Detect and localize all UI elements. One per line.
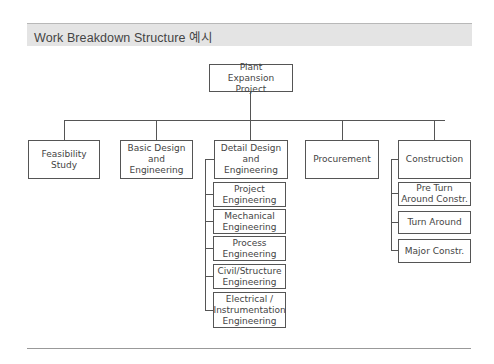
footer-divider: [27, 348, 471, 349]
connector: [156, 120, 157, 140]
wbs-root-node: Plant Expansion Project: [209, 64, 293, 92]
connector: [205, 159, 206, 310]
node-label: Electrical / Instrumentation Engineering: [214, 294, 286, 327]
node-label: Plant Expansion Project: [216, 62, 286, 95]
connector: [434, 120, 435, 140]
node-label: Civil/Structure Engineering: [217, 266, 283, 288]
connector: [391, 193, 398, 194]
wbs-node-feasibility-study: Feasibility Study: [28, 140, 100, 179]
connector: [391, 250, 398, 251]
title-bar: Work Breakdown Structure 예시: [27, 23, 472, 46]
wbs-node-procurement: Procurement: [305, 140, 379, 179]
wbs-node-process-engineering: Process Engineering: [213, 236, 286, 261]
node-label: Turn Around: [407, 217, 461, 228]
connector: [250, 120, 251, 140]
wbs-node-major-constr: Major Constr.: [398, 239, 471, 263]
node-label: Major Constr.: [405, 246, 464, 257]
node-label: Procurement: [313, 154, 371, 165]
node-label: Basic Design and Engineering: [125, 143, 189, 176]
wbs-node-pre-turn-around: Pre Turn Around Constr.: [398, 182, 471, 206]
wbs-node-civil-structure-engineering: Civil/Structure Engineering: [213, 264, 286, 289]
page-title: Work Breakdown Structure 예시: [34, 27, 213, 46]
wbs-node-turn-around: Turn Around: [398, 211, 471, 234]
node-label: Pre Turn Around Constr.: [399, 183, 470, 205]
node-label: Project Engineering: [217, 184, 283, 206]
wbs-node-basic-design: Basic Design and Engineering: [120, 140, 193, 179]
node-label: Construction: [406, 154, 463, 165]
connector: [64, 120, 65, 140]
connector: [391, 159, 398, 160]
connector: [64, 120, 445, 121]
node-label: Process Engineering: [217, 238, 283, 260]
connector: [205, 159, 214, 160]
connector: [391, 222, 398, 223]
node-label: Detail Design and Engineering: [219, 143, 283, 176]
connector: [391, 159, 392, 250]
wbs-node-project-engineering: Project Engineering: [213, 182, 286, 207]
connector: [342, 120, 343, 140]
node-label: Mechanical Engineering: [217, 211, 283, 233]
wbs-node-mechanical-engineering: Mechanical Engineering: [213, 209, 286, 234]
wbs-node-electrical-instrumentation-engineering: Electrical / Instrumentation Engineering: [213, 292, 286, 328]
wbs-node-construction: Construction: [398, 140, 471, 179]
wbs-node-detail-design: Detail Design and Engineering: [214, 140, 288, 179]
connector: [250, 92, 251, 121]
node-label: Feasibility Study: [37, 149, 91, 171]
